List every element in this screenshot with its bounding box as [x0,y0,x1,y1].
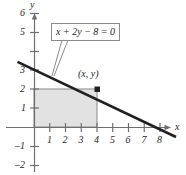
y-tick-label-2: 2 [20,84,25,94]
x-tick-label-6: 6 [126,135,131,145]
equation-callout-box: x + 2y − 8 = 0 [51,23,120,41]
y-tick-label-minus-2: –2 [15,160,25,170]
point-marker [95,87,101,93]
x-tick-label-2: 2 [63,135,68,145]
point-coordinate-label: (x, y) [78,69,99,79]
graph-figure: y x 6 5 3 2 1 –1 –2 1 2 3 4 5 6 7 8 x + … [0,0,186,175]
x-tick-label-5: 5 [110,135,115,145]
x-tick-label-8: 8 [157,135,162,145]
x-tick-label-3: 3 [79,135,84,145]
y-axis-label: y [30,0,34,10]
y-tick-label-3: 3 [20,65,25,75]
y-tick-label-5: 5 [20,27,25,37]
x-tick-label-7: 7 [142,135,147,145]
y-tick-label-minus-1: –1 [15,141,25,151]
y-tick-label-1: 1 [21,103,26,113]
x-axis-label: x [175,122,179,132]
x-tick-label-1: 1 [47,135,52,145]
callout-leader-lines [52,40,68,76]
x-axis-arrow [165,125,172,130]
x-tick-label-4: 4 [94,135,99,145]
y-tick-label-6: 6 [20,8,25,18]
